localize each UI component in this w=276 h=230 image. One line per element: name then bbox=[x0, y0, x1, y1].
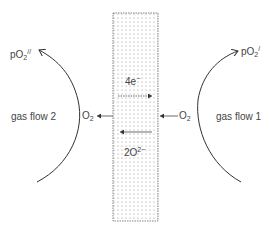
membrane bbox=[113, 13, 158, 221]
electron-label: 4e− bbox=[125, 75, 140, 87]
ion-label: 2O2− bbox=[124, 146, 145, 158]
right-o2-label: O2 bbox=[179, 111, 191, 122]
right-pressure-label: pO2/ bbox=[241, 45, 260, 58]
gas-flow-1-label: gas flow 1 bbox=[216, 112, 261, 122]
left-o2-label: O2 bbox=[82, 111, 94, 122]
gas-flow-2-label: gas flow 2 bbox=[11, 112, 56, 122]
left-pressure-label: pO2// bbox=[10, 48, 31, 61]
